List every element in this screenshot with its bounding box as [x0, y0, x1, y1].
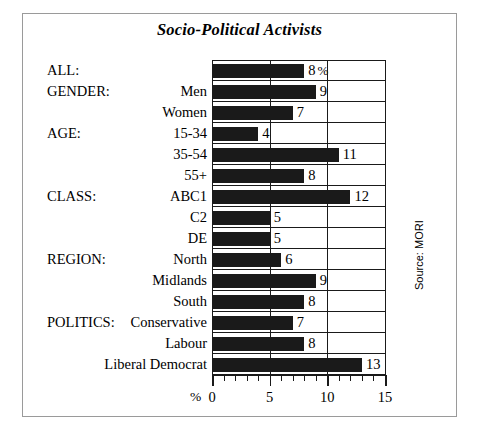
- bar-row: ALL:8%: [0, 60, 477, 81]
- bar-value-label: 8: [308, 335, 315, 352]
- bar: [212, 316, 293, 330]
- bar-value-label: 8: [308, 167, 315, 184]
- bar-row: GENDER:Men9: [0, 81, 477, 102]
- x-axis-unit-label: %: [190, 389, 201, 405]
- bar-value-number: 4: [262, 125, 269, 141]
- bar-value-label: 13: [366, 356, 381, 373]
- bar-value-number: 11: [343, 146, 357, 162]
- bar-value-label: 11: [343, 146, 357, 163]
- minor-tick: [281, 375, 282, 381]
- category-label: C2: [190, 209, 207, 226]
- bar: [212, 190, 350, 204]
- group-label: GENDER:: [47, 83, 110, 100]
- group-label: POLITICS:: [47, 314, 115, 331]
- bar-value-label: 12: [354, 188, 369, 205]
- bar: [212, 232, 270, 246]
- x-tick-label: 0: [208, 389, 215, 406]
- category-label: 55+: [184, 167, 207, 184]
- minor-tick: [235, 375, 236, 381]
- bar-value-number: 7: [297, 104, 304, 120]
- category-label: 35-54: [173, 146, 207, 163]
- gridline: [385, 60, 386, 375]
- x-tick-label: 5: [266, 389, 273, 406]
- bar-value-number: 8: [308, 167, 315, 183]
- major-tick: [270, 375, 272, 386]
- bar-value-number: 9: [320, 83, 327, 99]
- bar-value-number: 9: [320, 272, 327, 288]
- category-label: South: [173, 293, 207, 310]
- minor-tick: [362, 375, 363, 381]
- bar: [212, 358, 362, 372]
- bar-row: Midlands9: [0, 270, 477, 291]
- bar-row: Liberal Democrat13: [0, 354, 477, 375]
- major-tick: [385, 375, 387, 386]
- gridline: [327, 60, 328, 375]
- bar-row: 35-5411: [0, 144, 477, 165]
- category-label: Midlands: [152, 272, 207, 289]
- bar-row: Labour8: [0, 333, 477, 354]
- bar-value-number: 6: [285, 251, 292, 267]
- minor-tick: [224, 375, 225, 381]
- bar-row: C25: [0, 207, 477, 228]
- bar-value-label: 8%: [308, 62, 328, 79]
- bar-row: CLASS:ABC112: [0, 186, 477, 207]
- bar: [212, 106, 293, 120]
- minor-tick: [350, 375, 351, 381]
- bar-value-label: 5: [274, 230, 281, 247]
- bar-row: 55+8: [0, 165, 477, 186]
- bar-value-number: 12: [354, 188, 369, 204]
- group-label: REGION:: [47, 251, 106, 268]
- minor-tick: [293, 375, 294, 381]
- minor-tick: [316, 375, 317, 381]
- bar-value-number: 8: [308, 293, 315, 309]
- bar-value-number: 7: [297, 314, 304, 330]
- category-label: Conservative: [130, 314, 207, 331]
- bar-value-label: 6: [285, 251, 292, 268]
- minor-tick: [258, 375, 259, 381]
- bar-row: Women7: [0, 102, 477, 123]
- category-label: North: [173, 251, 207, 268]
- bar: [212, 148, 339, 162]
- x-axis-line: [212, 375, 386, 376]
- bar-value-label: 8: [308, 293, 315, 310]
- major-tick: [327, 375, 329, 386]
- bar-value-number: 5: [274, 209, 281, 225]
- category-label: Labour: [165, 335, 207, 352]
- bar-value-label: 7: [297, 104, 304, 121]
- category-label: DE: [188, 230, 207, 247]
- minor-tick: [247, 375, 248, 381]
- bar: [212, 64, 304, 78]
- bar: [212, 211, 270, 225]
- bar-value-number: 8: [308, 335, 315, 351]
- bar-value-label: 9: [320, 83, 327, 100]
- bar: [212, 295, 304, 309]
- group-label: CLASS:: [47, 188, 96, 205]
- gridline: [212, 60, 213, 375]
- gridline: [270, 60, 271, 375]
- minor-tick: [339, 375, 340, 381]
- bar-value-label: 9: [320, 272, 327, 289]
- bar-row: DE5: [0, 228, 477, 249]
- bar: [212, 127, 258, 141]
- x-tick-label: 10: [320, 389, 335, 406]
- category-label: 15-34: [173, 125, 207, 142]
- bar-value-number: 8: [308, 62, 315, 78]
- bar-row: AGE:15-344: [0, 123, 477, 144]
- bar: [212, 85, 316, 99]
- minor-tick: [304, 375, 305, 381]
- minor-tick: [373, 375, 374, 381]
- bar-value-number: 13: [366, 356, 381, 372]
- bar: [212, 274, 316, 288]
- bar: [212, 169, 304, 183]
- bar: [212, 253, 281, 267]
- category-label: ABC1: [170, 188, 207, 205]
- category-label: Men: [180, 83, 207, 100]
- category-label: Liberal Democrat: [104, 356, 207, 373]
- bar-row: South8: [0, 291, 477, 312]
- bar-rows-container: ALL:8%GENDER:Men9Women7AGE:15-34435-5411…: [0, 60, 477, 375]
- bar-value-label: 4: [262, 125, 269, 142]
- bar-value-label: 5: [274, 209, 281, 226]
- bar-value-label: 7: [297, 314, 304, 331]
- major-tick: [212, 375, 214, 386]
- bar: [212, 337, 304, 351]
